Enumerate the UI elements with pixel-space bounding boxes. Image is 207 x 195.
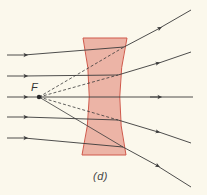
- concave-lens: [82, 38, 127, 155]
- outgoing-rays: [118, 10, 193, 187]
- focal-point-label: F: [31, 81, 38, 93]
- incoming-rays: [7, 47, 160, 147]
- diagram-canvas: F (d): [0, 0, 207, 195]
- ray-diagram: [0, 0, 207, 195]
- figure-caption: (d): [93, 170, 108, 182]
- focal-point-dot: [37, 95, 41, 99]
